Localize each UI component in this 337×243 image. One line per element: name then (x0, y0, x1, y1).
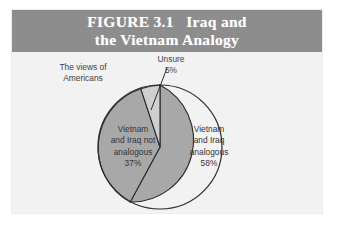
figure-title-banner: FIGURE 3.1 Iraq and the Vietnam Analogy (12, 10, 322, 52)
scanned-page: FIGURE 3.1 Iraq and the Vietnam Analogy … (0, 0, 337, 243)
views-annotation-line-1: The views of (29, 62, 137, 73)
unsure-callout-label: Unsure 5% (141, 54, 201, 76)
scan-artifact-text (4, 231, 64, 239)
unsure-callout-value: 5% (141, 65, 201, 76)
views-of-americans-annotation: The views of Americans (29, 62, 137, 84)
figure-title-line-1: FIGURE 3.1 Iraq and (87, 13, 247, 31)
views-annotation-line-2: Americans (29, 73, 137, 84)
figure-title-line-2: the Vietnam Analogy (95, 31, 239, 49)
unsure-callout-name: Unsure (141, 54, 201, 65)
pie-chart: The views of Americans Unsure 5% Vietnam… (12, 52, 322, 213)
